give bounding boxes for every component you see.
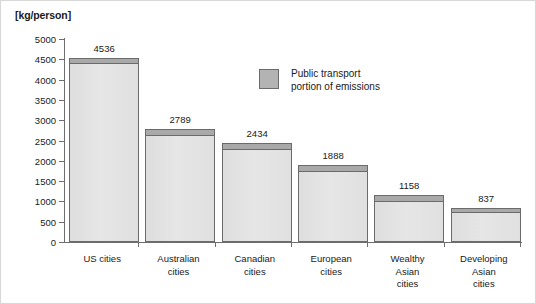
bar-segment-public-transport bbox=[375, 196, 443, 202]
y-axis-tick-label: 5000 bbox=[35, 34, 56, 45]
y-axis-tick bbox=[59, 59, 64, 60]
y-axis-tick-label: 4000 bbox=[35, 74, 56, 85]
bar bbox=[451, 208, 521, 242]
x-axis-category-label: US cities bbox=[58, 253, 146, 266]
y-axis-unit-label: [kg/person] bbox=[15, 9, 71, 21]
x-axis-tick bbox=[520, 242, 521, 247]
bar-value-label: 1888 bbox=[323, 150, 344, 161]
bar-segment-public-transport bbox=[299, 166, 367, 171]
x-axis-category-label: WealthyAsiancities bbox=[363, 253, 451, 291]
bar-value-label: 2434 bbox=[247, 128, 268, 139]
bar-segment-public-transport bbox=[223, 144, 291, 150]
x-axis-category-label: DevelopingAsiancities bbox=[440, 253, 528, 291]
y-axis-tick-label: 500 bbox=[40, 216, 56, 227]
y-axis-tick-label: 3500 bbox=[35, 94, 56, 105]
category-label-line: Canadian bbox=[211, 253, 299, 266]
legend-label-public-transport: Public transport portion of emissions bbox=[291, 68, 380, 93]
x-axis-tick bbox=[215, 242, 216, 247]
legend-label-line-2: portion of emissions bbox=[291, 81, 380, 94]
x-axis-category-label: Australiancities bbox=[134, 253, 222, 278]
category-label-line: Wealthy bbox=[363, 253, 451, 266]
y-axis-tick-label: 2000 bbox=[35, 155, 56, 166]
emissions-bar-chart: [kg/person] 0500100015002000250030003500… bbox=[0, 0, 536, 304]
y-axis-tick bbox=[59, 100, 64, 101]
y-axis-tick-label: 0 bbox=[51, 237, 56, 248]
x-axis-category-label: Europeancities bbox=[287, 253, 375, 278]
bar-segment-public-transport bbox=[452, 209, 520, 213]
category-label-line: cities bbox=[134, 266, 222, 279]
y-axis-tick-label: 2500 bbox=[35, 135, 56, 146]
legend: Public transport portion of emissions bbox=[259, 68, 380, 93]
bar-segment-public-transport bbox=[146, 130, 214, 136]
bar bbox=[222, 143, 292, 242]
category-label-line: cities bbox=[363, 278, 451, 291]
bar bbox=[145, 129, 215, 242]
bar bbox=[374, 195, 444, 242]
bar-segment-public-transport bbox=[70, 59, 138, 64]
bar-value-label: 837 bbox=[478, 193, 494, 204]
bar-value-label: 4536 bbox=[94, 43, 115, 54]
y-axis-tick bbox=[59, 242, 64, 243]
bar bbox=[69, 58, 139, 242]
y-axis-tick-label: 1000 bbox=[35, 196, 56, 207]
category-label-line: Asian bbox=[363, 266, 451, 279]
y-axis-tick bbox=[59, 181, 64, 182]
x-axis-tick bbox=[367, 242, 368, 247]
y-axis-tick-label: 1500 bbox=[35, 176, 56, 187]
x-axis-tick bbox=[291, 242, 292, 247]
bar-value-label: 2789 bbox=[170, 114, 191, 125]
y-axis-tick bbox=[59, 161, 64, 162]
x-axis-category-label: Canadiancities bbox=[211, 253, 299, 278]
y-axis-tick bbox=[59, 80, 64, 81]
legend-swatch-public-transport bbox=[259, 69, 279, 89]
category-label-line: Developing bbox=[440, 253, 528, 266]
legend-label-line-1: Public transport bbox=[291, 68, 380, 81]
y-axis-tick-label: 4500 bbox=[35, 54, 56, 65]
category-label-line: European bbox=[287, 253, 375, 266]
category-label-line: cities bbox=[211, 266, 299, 279]
y-axis-tick bbox=[59, 201, 64, 202]
x-axis-line bbox=[64, 242, 522, 243]
category-label-line: Asian bbox=[440, 266, 528, 279]
y-axis-tick-label: 3000 bbox=[35, 115, 56, 126]
x-axis-tick bbox=[444, 242, 445, 247]
bar-value-label: 1158 bbox=[399, 180, 419, 191]
category-label-line: US cities bbox=[58, 253, 146, 266]
category-label-line: cities bbox=[287, 266, 375, 279]
y-axis-tick bbox=[59, 141, 64, 142]
category-label-line: Australian bbox=[134, 253, 222, 266]
bar bbox=[298, 165, 368, 242]
y-axis-tick bbox=[59, 39, 64, 40]
x-axis-tick bbox=[138, 242, 139, 247]
y-axis-tick bbox=[59, 120, 64, 121]
y-axis-tick bbox=[59, 222, 64, 223]
category-label-line: cities bbox=[440, 278, 528, 291]
